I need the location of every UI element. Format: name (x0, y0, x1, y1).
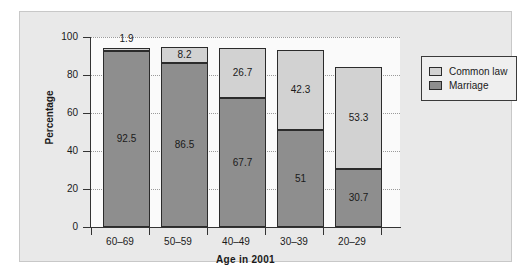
legend-label-common-law: Common law (449, 66, 507, 77)
y-tick-label-0: 0 (38, 221, 78, 232)
legend-item-marriage[interactable]: Marriage (429, 80, 507, 91)
bar-segment-commonlaw-20-29[interactable]: 53.3 (335, 67, 382, 168)
bar-label-marriage-50-59: 86.5 (175, 140, 194, 150)
bar-segment-commonlaw-50-59[interactable]: 8.2 (161, 47, 208, 63)
chart-legend: Common law Marriage (421, 56, 517, 101)
bar-segment-marriage-20-29[interactable]: 30.7 (335, 169, 382, 227)
bar-label-commonlaw-50-59: 8.2 (178, 50, 192, 60)
x-tick-3 (265, 228, 266, 235)
bar-segment-commonlaw-40-49[interactable]: 26.7 (219, 48, 266, 99)
bar-segment-marriage-40-49[interactable]: 67.7 (219, 98, 266, 227)
x-axis-line (90, 227, 401, 228)
bar-label-marriage-30-39: 51 (295, 174, 306, 184)
x-axis-title: Age in 2001 (91, 254, 400, 265)
legend-swatch-marriage (429, 81, 442, 90)
bar-label-marriage-20-29: 30.7 (349, 193, 368, 203)
y-axis-title: Percentage (44, 78, 55, 158)
x-tick-label-50-59: 50–59 (147, 236, 209, 247)
plot-area: 1.9 92.5 8.2 86.5 26.7 (91, 37, 400, 227)
y-axis-line (90, 37, 91, 228)
legend-label-marriage: Marriage (449, 80, 488, 91)
bar-segment-marriage-30-39[interactable]: 51 (277, 130, 324, 227)
y-tick-0 (83, 227, 91, 228)
x-tick-label-60-69: 60–69 (89, 236, 151, 247)
x-tick-label-20-29: 20–29 (321, 236, 383, 247)
y-tick-80 (83, 75, 91, 76)
bar-segment-marriage-60-69[interactable]: 92.5 (103, 51, 150, 227)
x-tick-0 (91, 228, 92, 235)
bar-label-commonlaw-40-49: 26.7 (233, 68, 252, 78)
x-tick-1 (149, 228, 150, 235)
bar-label-marriage-60-69: 92.5 (117, 134, 136, 144)
bar-segment-commonlaw-30-39[interactable]: 42.3 (277, 50, 324, 130)
bar-label-commonlaw-20-29: 53.3 (349, 113, 368, 123)
y-tick-40 (83, 151, 91, 152)
bar-label-marriage-40-49: 67.7 (233, 158, 252, 168)
legend-swatch-common-law (429, 67, 442, 76)
y-tick-60 (83, 113, 91, 114)
y-tick-100 (83, 37, 91, 38)
chart-figure: 1.9 92.5 8.2 86.5 26.7 (0, 0, 529, 276)
bar-label-commonlaw-30-39: 42.3 (291, 85, 310, 95)
bar-label-commonlaw-60-69: 1.9 (103, 33, 150, 44)
x-tick-label-40-49: 40–49 (205, 236, 267, 247)
x-tick-2 (207, 228, 208, 235)
x-tick-label-30-39: 30–39 (263, 236, 325, 247)
y-tick-label-20: 20 (38, 183, 78, 194)
x-tick-4 (323, 228, 324, 235)
bar-segment-marriage-50-59[interactable]: 86.5 (161, 63, 208, 227)
chart-panel: 1.9 92.5 8.2 86.5 26.7 (19, 11, 512, 262)
x-tick-5 (381, 228, 382, 235)
legend-item-common-law[interactable]: Common law (429, 66, 507, 77)
y-tick-20 (83, 189, 91, 190)
y-tick-label-100: 100 (38, 31, 78, 42)
